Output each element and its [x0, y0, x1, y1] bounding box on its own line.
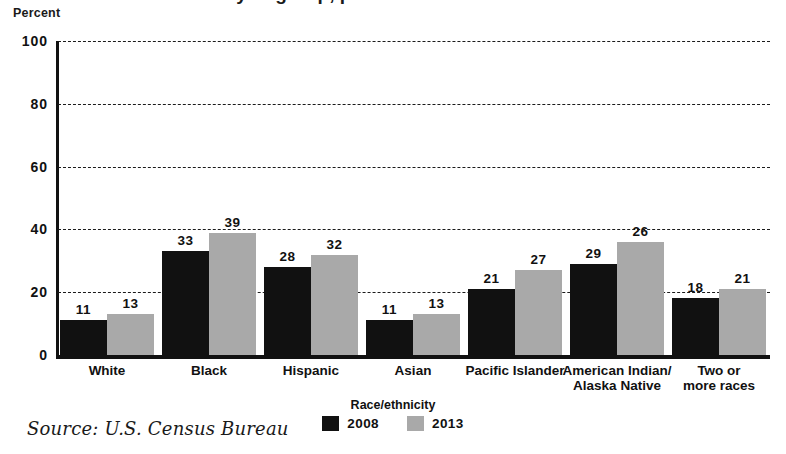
- legend-swatch-2013: [407, 416, 424, 431]
- bar-2008[interactable]: 29: [570, 264, 617, 355]
- legend-item-2008[interactable]: 2008: [322, 416, 379, 431]
- bar-value-label: 26: [632, 224, 648, 239]
- x-axis-category-line: Pacific Islander: [465, 363, 564, 378]
- legend-swatch-2008: [322, 416, 339, 431]
- x-axis-line: [56, 355, 770, 359]
- y-tick-label-60: 60: [30, 159, 48, 175]
- x-axis-category-label: White: [89, 363, 126, 378]
- bar-group: 2127Pacific Islander: [464, 41, 566, 355]
- bar-value-label: 11: [382, 302, 397, 317]
- bar-group: 1113Asian: [362, 41, 464, 355]
- source-note: Source: U.S. Census Bureau: [27, 418, 289, 439]
- bar-pair: 1113: [56, 41, 158, 355]
- y-tick-label-40: 40: [30, 221, 48, 237]
- bar-2008[interactable]: 21: [468, 289, 515, 355]
- x-axis-category-line: Alaska Native: [563, 378, 672, 393]
- legend-label-2008: 2008: [347, 416, 379, 431]
- y-axis-label: Percent: [13, 6, 60, 20]
- legend-title: Race/ethnicity: [0, 398, 786, 412]
- legend-item-2013[interactable]: 2013: [407, 416, 464, 431]
- bar-value-label: 33: [177, 233, 193, 248]
- bar-value-label: 21: [483, 271, 499, 286]
- bar-2013[interactable]: 26: [617, 242, 664, 355]
- bar-group: 1821Two ormore races: [668, 41, 770, 355]
- bar-pair: 2127: [464, 41, 566, 355]
- x-axis-category-label: Asian: [395, 363, 432, 378]
- bar-2013[interactable]: 39: [209, 233, 256, 355]
- x-axis-category-label: Hispanic: [283, 363, 339, 378]
- bar-group: 2926American Indian/Alaska Native: [566, 41, 668, 355]
- y-tick-label-80: 80: [30, 96, 48, 112]
- y-tick-label-100: 100: [22, 33, 48, 49]
- bar-2008[interactable]: 11: [366, 320, 413, 355]
- x-axis-category-line: American Indian/: [563, 363, 672, 378]
- bar-2008[interactable]: 28: [264, 267, 311, 355]
- y-tick-label-20: 20: [30, 284, 48, 300]
- bar-2008[interactable]: 11: [60, 320, 107, 355]
- legend-label-2013: 2013: [432, 416, 464, 431]
- x-axis-category-label: Two ormore races: [683, 363, 755, 393]
- x-axis-category-line: Black: [191, 363, 227, 378]
- x-axis-category-line: Hispanic: [283, 363, 339, 378]
- bar-2013[interactable]: 32: [311, 255, 358, 355]
- bar-value-label: 21: [734, 271, 750, 286]
- chart-title-cutoff: Race/ethnicity of group, percent: [0, 0, 786, 5]
- x-axis-category-label: American Indian/Alaska Native: [563, 363, 672, 393]
- plot-area: 020406080100 1113White3339Black2832Hispa…: [56, 41, 770, 355]
- x-axis-category-label: Black: [191, 363, 227, 378]
- bar-pair: 2832: [260, 41, 362, 355]
- bar-2013[interactable]: 13: [107, 314, 154, 355]
- bar-value-label: 27: [530, 252, 546, 267]
- bar-pair: 1113: [362, 41, 464, 355]
- x-axis-category-line: White: [89, 363, 126, 378]
- x-axis-category-line: Asian: [395, 363, 432, 378]
- bar-value-label: 18: [687, 280, 703, 295]
- bar-value-label: 11: [76, 302, 91, 317]
- bar-value-label: 13: [428, 296, 444, 311]
- bar-group: 2832Hispanic: [260, 41, 362, 355]
- y-tick-label-0: 0: [39, 347, 48, 363]
- x-axis-category-line: more races: [683, 378, 755, 393]
- bar-pair: 3339: [158, 41, 260, 355]
- bar-2008[interactable]: 18: [672, 298, 719, 355]
- bar-value-label: 28: [279, 249, 295, 264]
- bar-2013[interactable]: 13: [413, 314, 460, 355]
- bar-value-label: 13: [122, 296, 138, 311]
- bar-2013[interactable]: 27: [515, 270, 562, 355]
- x-axis-category-label: Pacific Islander: [465, 363, 564, 378]
- bar-value-label: 32: [326, 237, 342, 252]
- bar-value-label: 29: [585, 246, 601, 261]
- bar-pair: 2926: [566, 41, 668, 355]
- bar-2008[interactable]: 33: [162, 251, 209, 355]
- bar-group: 3339Black: [158, 41, 260, 355]
- bar-group: 1113White: [56, 41, 158, 355]
- bar-2013[interactable]: 21: [719, 289, 766, 355]
- bar-value-label: 39: [224, 215, 240, 230]
- x-axis-category-line: Two or: [683, 363, 755, 378]
- bar-pair: 1821: [668, 41, 770, 355]
- chart-title-text: Race/ethnicity of group, percent: [118, 0, 408, 5]
